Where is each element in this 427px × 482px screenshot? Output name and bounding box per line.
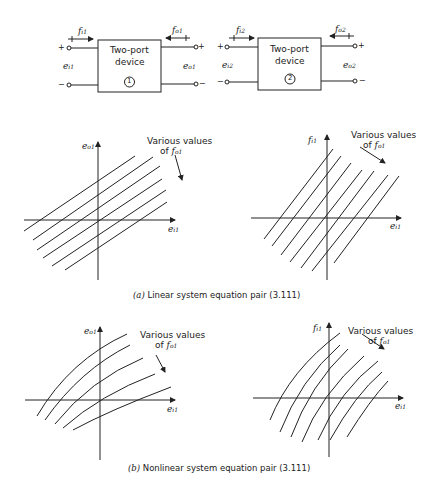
device-2-plus-in: + xyxy=(217,43,224,51)
caption-a: (a) Linear system equation pair (3.111) xyxy=(133,290,300,300)
device-2-output-flow-label: fo2 xyxy=(335,25,346,34)
device-1-input-effort-label: ei1 xyxy=(63,62,74,71)
device-2-input-effort-label: ei2 xyxy=(222,61,233,70)
device-1-output-flow-label: fo1 xyxy=(172,26,183,35)
device-1-input-flow-label: fi1 xyxy=(78,27,87,36)
device-2-minus-out: − xyxy=(359,77,366,85)
device-1-title-line1: Two-port xyxy=(110,46,149,55)
plot-b-right-annotation-line1: Various values xyxy=(348,327,413,336)
device-1-number: 1 xyxy=(127,78,131,85)
plot-a-left xyxy=(24,142,182,280)
plot-a-left-ylabel: eo1 xyxy=(82,142,95,151)
plot-b-left-annotation-line1: Various values xyxy=(140,331,205,340)
device-2-input-flow-label: fi2 xyxy=(236,26,245,35)
plot-b-left xyxy=(25,327,175,460)
device-1-plus-out: + xyxy=(198,43,205,51)
device-2-minus-in: − xyxy=(217,78,224,86)
device-1-minus-in: − xyxy=(58,81,65,89)
device-2-title-line2: device xyxy=(275,57,305,66)
device-1-output-effort-label: eo1 xyxy=(183,62,196,71)
plot-a-left-annotation-line2: of fo1 xyxy=(160,147,182,156)
caption-b: (b) Nonlinear system equation pair (3.11… xyxy=(128,463,310,473)
device-2-number: 2 xyxy=(288,75,292,82)
plot-a-right-xlabel: ei1 xyxy=(390,222,401,231)
figure-drawing xyxy=(0,0,427,482)
device-1-title-line2: device xyxy=(115,58,145,67)
device-2-plus-out: + xyxy=(358,42,365,50)
device-2-title-line1: Two-port xyxy=(270,45,309,54)
plot-a-left-xlabel: ei1 xyxy=(168,225,179,234)
plot-b-right-xlabel: ei1 xyxy=(395,402,406,411)
plot-a-left-annotation-line1: Various values xyxy=(147,137,212,146)
plot-b-left-annotation-line2: of fo1 xyxy=(155,341,177,350)
plot-a-right xyxy=(251,135,401,280)
device-1-plus-in: + xyxy=(58,44,65,52)
device-1-minus-out: − xyxy=(199,80,206,88)
plot-a-right-ylabel: fi1 xyxy=(308,136,317,145)
plot-a-right-annotation-line2: of fo1 xyxy=(363,141,385,150)
plot-b-right-ylabel: fi1 xyxy=(313,324,322,333)
plot-b-left-ylabel: eo1 xyxy=(84,327,97,336)
device-2-output-effort-label: eo2 xyxy=(343,61,356,70)
plot-a-right-annotation-line1: Various values xyxy=(351,131,416,140)
plot-b-left-xlabel: ei1 xyxy=(167,405,178,414)
plot-b-right-annotation-line2: of fo1 xyxy=(368,337,390,346)
